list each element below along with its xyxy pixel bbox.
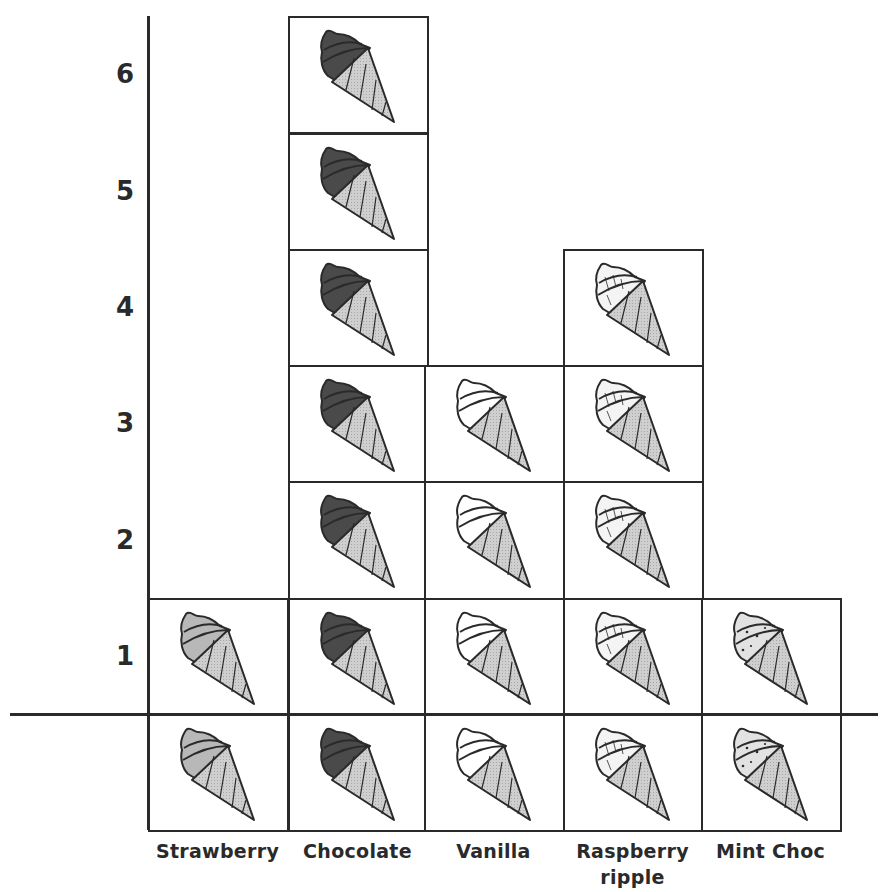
key-cone-cell [701,714,842,832]
pictogram-cell [288,365,429,483]
ice-cream-cone-icon [308,489,408,593]
category-label: Mint Choc [701,838,840,864]
category-label: Chocolate [288,838,427,864]
category-label: Strawberry [148,838,287,864]
y-tick-label: 5 [100,176,150,206]
ice-cream-cone-icon [308,257,408,361]
pictogram-cell [288,133,429,251]
pictogram-cell [563,365,704,483]
pictogram-cell [563,598,704,716]
pictogram-cell [288,16,429,134]
key-cone-cell [148,714,289,832]
ice-cream-cone-icon [583,489,683,593]
pictogram-cell [288,481,429,599]
category-label-line1: Chocolate [288,838,427,864]
ice-cream-cone-icon [444,373,544,477]
pictogram-cell [424,365,565,483]
pictogram-cell [288,598,429,716]
ice-cream-cone-icon [308,606,408,710]
key-cone-cell [563,714,704,832]
ice-cream-cone-icon [308,373,408,477]
category-label: Raspberryripple [563,838,702,890]
pictogram-cell [701,598,842,716]
ice-cream-cone-icon [444,722,544,826]
y-tick-label: 6 [100,59,150,89]
category-label-line1: Strawberry [148,838,287,864]
ice-cream-cone-icon [168,722,268,826]
pictogram-chart: 123456 StrawberryChocolateVanillaRaspber… [0,0,883,892]
ice-cream-cone-icon [721,606,821,710]
category-label-line2: ripple [563,864,702,890]
pictogram-cell [288,249,429,367]
ice-cream-cone-icon [168,606,268,710]
ice-cream-cone-icon [444,489,544,593]
pictogram-cell [563,249,704,367]
ice-cream-cone-icon [308,24,408,128]
pictogram-cell [424,481,565,599]
key-cone-cell [424,714,565,832]
ice-cream-cone-icon [583,373,683,477]
ice-cream-cone-icon [308,722,408,826]
ice-cream-cone-icon [721,722,821,826]
category-label-line1: Vanilla [424,838,563,864]
y-tick-label: 2 [100,525,150,555]
ice-cream-cone-icon [583,606,683,710]
ice-cream-cone-icon [583,257,683,361]
category-label-line1: Raspberry [563,838,702,864]
key-cone-cell [288,714,429,832]
y-tick-label: 3 [100,408,150,438]
category-label: Vanilla [424,838,563,864]
ice-cream-cone-icon [308,141,408,245]
pictogram-cell [563,481,704,599]
pictogram-cell [424,598,565,716]
pictogram-cell [148,598,289,716]
y-tick-label: 1 [100,641,150,671]
ice-cream-cone-icon [583,722,683,826]
x-axis-line [10,713,878,716]
category-label-line1: Mint Choc [701,838,840,864]
ice-cream-cone-icon [444,606,544,710]
y-tick-label: 4 [100,292,150,322]
